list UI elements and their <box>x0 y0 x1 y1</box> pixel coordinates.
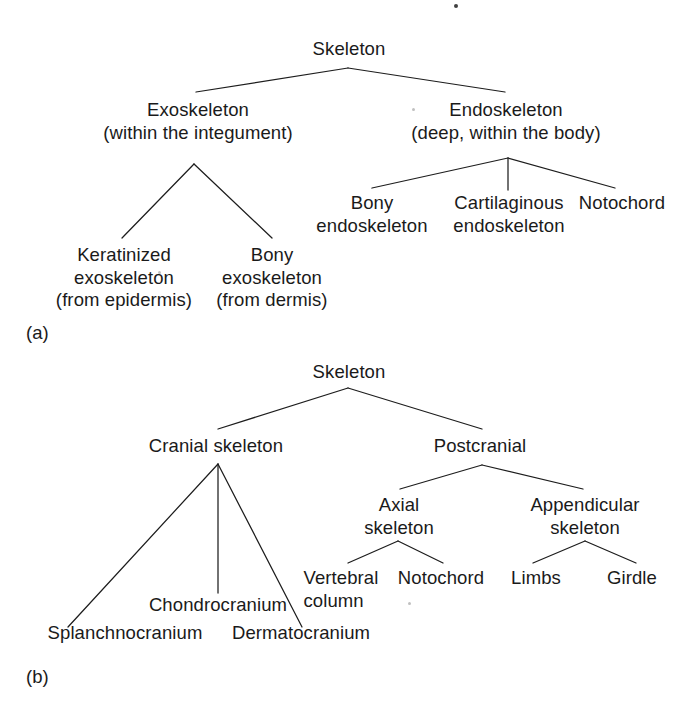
edge-postcranial-axial <box>400 465 482 489</box>
figure-a: Skeleton Exoskeleton (within the integum… <box>0 0 691 355</box>
node-axial-skeleton-line2: skeleton <box>364 517 434 540</box>
node-bony-exoskeleton-line2: exoskeleton <box>216 267 327 290</box>
node-vertebral-column[interactable]: Vertebral column <box>304 567 379 612</box>
node-keratinized-exoskeleton-line3: (from epidermis) <box>56 289 192 312</box>
node-vertebral-column-line2: column <box>304 590 379 613</box>
node-appendicular-skeleton[interactable]: Appendicular skeleton <box>530 494 639 539</box>
node-keratinized-exoskeleton-line1: Keratinized <box>56 244 192 267</box>
scan-speck <box>158 271 161 274</box>
node-cartilaginous-endoskeleton-line2: endoskeleton <box>453 215 564 238</box>
node-girdle[interactable]: Girdle <box>607 567 657 590</box>
figure-a-caption: (a) <box>26 322 49 344</box>
node-splanchnocranium-line1: Splanchnocranium <box>48 622 203 645</box>
node-exoskeleton-line2: (within the integument) <box>103 122 292 145</box>
node-appendicular-skeleton-line1: Appendicular <box>530 494 639 517</box>
node-notochord-line1: Notochord <box>398 567 484 590</box>
edge-skeleton-cranial <box>218 388 348 429</box>
node-postcranial[interactable]: Postcranial <box>434 435 527 458</box>
node-chondrocranium[interactable]: Chondrocranium <box>149 594 287 617</box>
edge-endoskeleton-notochord <box>508 158 615 188</box>
node-notochord-line1: Notochord <box>579 192 665 215</box>
node-bony-endoskeleton-line2: endoskeleton <box>316 215 427 238</box>
node-axial-skeleton[interactable]: Axial skeleton <box>364 494 434 539</box>
node-notochord[interactable]: Notochord <box>579 192 665 215</box>
node-endoskeleton[interactable]: Endoskeleton (deep, within the body) <box>411 99 600 144</box>
edge-appendicular-girdle <box>585 541 636 563</box>
edge-postcranial-appendicular <box>482 465 583 489</box>
node-cartilaginous-endoskeleton-line1: Cartilaginous <box>453 192 564 215</box>
edge-skeleton-exoskeleton <box>196 68 348 92</box>
node-axial-skeleton-line1: Axial <box>364 494 434 517</box>
edge-skeleton-postcranial <box>348 388 482 429</box>
node-cartilaginous-endoskeleton[interactable]: Cartilaginous endoskeleton <box>453 192 564 237</box>
node-dermatocranium-line1: Dermatocranium <box>232 622 370 645</box>
edge-axial-notochord <box>398 541 443 563</box>
node-limbs-line1: Limbs <box>511 567 561 590</box>
edge-exoskeleton-bony <box>194 164 272 238</box>
node-cranial-skeleton[interactable]: Cranial skeleton <box>149 435 283 458</box>
node-splanchnocranium[interactable]: Splanchnocranium <box>48 622 203 645</box>
edge-skeleton-endoskeleton <box>348 68 505 92</box>
node-skeleton-line1: Skeleton <box>313 361 386 384</box>
scan-speck <box>454 4 458 8</box>
node-bony-endoskeleton[interactable]: Bony endoskeleton <box>316 192 427 237</box>
node-vertebral-column-line1: Vertebral <box>304 567 379 590</box>
node-exoskeleton[interactable]: Exoskeleton (within the integument) <box>103 99 292 144</box>
node-appendicular-skeleton-line2: skeleton <box>530 517 639 540</box>
node-endoskeleton-line2: (deep, within the body) <box>411 122 600 145</box>
node-bony-exoskeleton[interactable]: Bony exoskeleton (from dermis) <box>216 244 327 312</box>
node-bony-exoskeleton-line1: Bony <box>216 244 327 267</box>
node-postcranial-line1: Postcranial <box>434 435 527 458</box>
edge-exoskeleton-keratinized <box>122 164 194 238</box>
node-keratinized-exoskeleton[interactable]: Keratinized exoskeleton (from epidermis) <box>56 244 192 312</box>
node-girdle-line1: Girdle <box>607 567 657 590</box>
node-skeleton[interactable]: Skeleton <box>313 38 386 61</box>
node-skeleton[interactable]: Skeleton <box>313 361 386 384</box>
node-endoskeleton-line1: Endoskeleton <box>411 99 600 122</box>
node-bony-exoskeleton-line3: (from dermis) <box>216 289 327 312</box>
edge-appendicular-limbs <box>533 541 585 563</box>
node-limbs[interactable]: Limbs <box>511 567 561 590</box>
figure-b: Skeleton Cranial skeleton Postcranial Ax… <box>0 355 691 715</box>
scan-speck <box>412 108 415 111</box>
node-bony-endoskeleton-line1: Bony <box>316 192 427 215</box>
node-cranial-skeleton-line1: Cranial skeleton <box>149 435 283 458</box>
scan-speck <box>408 602 411 605</box>
node-notochord[interactable]: Notochord <box>398 567 484 590</box>
figure-b-caption: (b) <box>26 666 49 688</box>
node-skeleton-line1: Skeleton <box>313 38 386 61</box>
edge-axial-vertebral <box>348 541 398 563</box>
node-dermatocranium[interactable]: Dermatocranium <box>232 622 370 645</box>
node-keratinized-exoskeleton-line2: exoskeleton <box>56 267 192 290</box>
node-chondrocranium-line1: Chondrocranium <box>149 594 287 617</box>
node-exoskeleton-line1: Exoskeleton <box>103 99 292 122</box>
edge-endoskeleton-bony <box>372 158 508 188</box>
